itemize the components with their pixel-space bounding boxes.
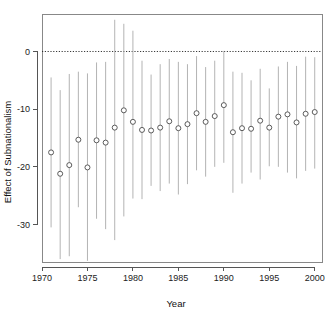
data-point [285,112,290,117]
data-point [194,111,199,116]
data-point [176,126,181,131]
data-point [258,118,263,123]
x-axis-tick-label: 2000 [305,273,325,283]
data-point [149,128,154,133]
data-point [249,126,254,131]
data-point [230,130,235,135]
errorbar-series [51,20,315,261]
data-point [94,138,99,143]
y-axis-title: Effect of Subnationalism [2,101,13,203]
x-axis-tick-label: 1975 [77,273,97,283]
y-axis: 0-10-20-30 [17,47,37,230]
chart-canvas: 1970197519801985199019952000 0-10-20-30 … [0,0,332,314]
data-point [167,119,172,124]
data-point [158,125,163,130]
data-point [67,163,72,168]
y-axis-tick-label: -30 [17,220,30,230]
data-point [240,126,245,131]
y-axis-tick-label: 0 [25,47,30,57]
data-point [203,119,208,124]
data-point [130,119,135,124]
data-point [121,108,126,113]
data-point [294,120,299,125]
y-axis-tick-label: -10 [17,104,30,114]
y-axis-tick-label: -20 [17,162,30,172]
x-axis-tick-label: 1980 [123,273,143,283]
data-point [140,127,145,132]
x-axis-title: Year [166,298,185,309]
data-point [312,110,317,115]
data-point [303,111,308,116]
x-axis-tick-label: 1970 [32,273,52,283]
data-point [103,140,108,145]
x-axis-tick-label: 1995 [259,273,279,283]
point-series [49,103,318,177]
x-axis-tick-label: 1985 [168,273,188,283]
data-point [58,171,63,176]
data-point [212,114,217,119]
data-point [76,137,81,142]
x-axis: 1970197519801985199019952000 [32,267,325,283]
data-point [49,150,54,155]
data-point [85,165,90,170]
data-point [112,125,117,130]
coefficient-plot-figure: 1970197519801985199019952000 0-10-20-30 … [0,0,332,314]
data-point [276,114,281,119]
x-axis-tick-label: 1990 [214,273,234,283]
data-point [267,125,272,130]
data-point [221,103,226,108]
data-point [185,122,190,127]
